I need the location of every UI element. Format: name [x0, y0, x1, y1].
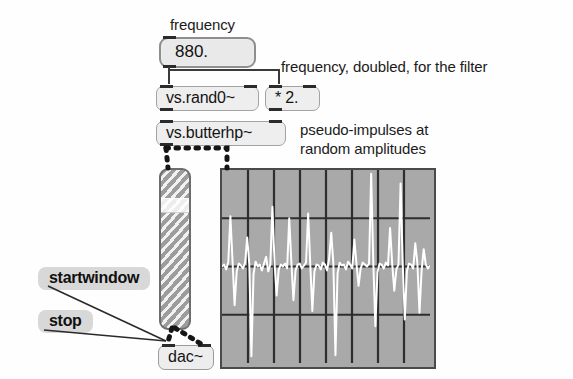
pd-patch-canvas: frequency 880. frequency, doubled, for t… — [0, 0, 573, 379]
comment-pseudo-impulses-line2: random amplitudes — [300, 140, 426, 157]
dac-inlet-left — [162, 344, 175, 347]
wire-to-times2 — [278, 69, 280, 84]
scope-waveform — [222, 170, 430, 363]
comment-frequency: frequency — [170, 16, 235, 33]
object-dac[interactable]: dac~ — [158, 345, 214, 370]
comment-pseudo-impulses-line1: pseudo-impulses at — [300, 121, 428, 138]
signal-cord-butterhp-to-slider — [166, 148, 168, 168]
signal-cord-butterhp-to-scope — [166, 148, 227, 168]
wire-numbox-across — [168, 69, 280, 71]
rand0-outlet — [160, 108, 173, 111]
object-vs-butterhp[interactable]: vs.butterhp~ — [156, 121, 286, 146]
butterhp-inlet-left — [160, 120, 173, 123]
times2-inlet-right — [303, 85, 316, 88]
butterhp-outlet — [160, 143, 173, 146]
times2-inlet-left — [269, 85, 282, 88]
signal-cord-slider-to-dac-left — [167, 328, 172, 345]
rand0-inlet-right — [244, 85, 257, 88]
signal-scope-graph[interactable] — [220, 168, 436, 369]
frequency-number-box[interactable]: 880. — [159, 37, 256, 68]
comment-frequency-doubled: frequency, doubled, for the filter — [281, 58, 487, 75]
signal-cord-slider-to-dac-right — [175, 328, 203, 345]
number-box-inlet — [163, 36, 176, 39]
message-stop[interactable]: stop — [38, 310, 93, 333]
butterhp-inlet-right — [269, 120, 282, 123]
dac-inlet-right — [198, 344, 211, 347]
slider-knob[interactable] — [161, 198, 189, 213]
output-level-slider[interactable] — [159, 168, 191, 330]
times2-outlet — [269, 108, 282, 111]
message-startwindow[interactable]: startwindow — [38, 267, 150, 290]
rand0-inlet-left — [160, 85, 173, 88]
